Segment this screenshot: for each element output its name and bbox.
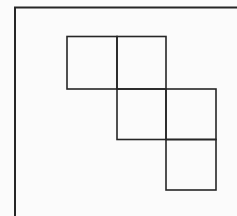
background xyxy=(0,0,237,216)
staircase-squares-diagram xyxy=(0,0,237,216)
